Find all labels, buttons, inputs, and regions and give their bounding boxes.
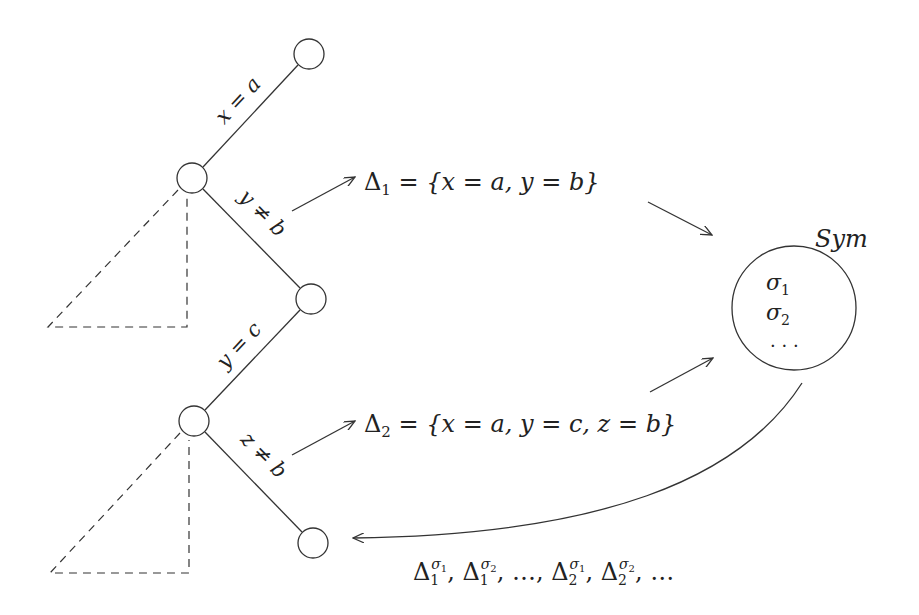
- sym-item-sigma1: σ1: [766, 270, 790, 298]
- tree-node-4: [179, 406, 209, 436]
- edge-label-y-neq-b: y ≠ b: [234, 184, 291, 241]
- sym-item-sigma2: σ2: [766, 300, 790, 328]
- arrow-delta1-to-sym: [648, 202, 712, 235]
- arrow-to-delta1: [292, 177, 355, 211]
- tree-node-3: [296, 284, 326, 314]
- symmetric-nogoods-list: Δ1σ1, Δ1σ2, …, Δ2σ1, Δ2σ2, …: [413, 556, 674, 588]
- arrow-sym-to-tree: [353, 383, 802, 538]
- nogood-delta1: Δ1 = {x = a, y = b}: [364, 168, 600, 199]
- sym-ellipsis: · · ·: [770, 335, 799, 356]
- arrow-to-delta2: [292, 421, 355, 455]
- edge-label-z-neq-b: z ≠ b: [235, 426, 292, 483]
- edge-label-x-eq-a: x = a: [210, 72, 265, 129]
- pruned-subtree-1: [48, 190, 187, 327]
- tree-node-5: [298, 528, 328, 558]
- tree-node-2: [177, 163, 207, 193]
- tree-node-1: [294, 39, 324, 69]
- diagram-canvas: x = a y ≠ b y = c z ≠ b Δ1 = {x = a, y =…: [0, 0, 919, 615]
- nogood-delta2: Δ2 = {x = a, y = c, z = b}: [364, 410, 676, 441]
- sym-set-title: Sym: [815, 225, 868, 253]
- pruned-subtree-2: [50, 433, 189, 573]
- edge-label-y-eq-c: y = c: [211, 317, 267, 374]
- arrow-delta2-to-sym: [650, 358, 713, 392]
